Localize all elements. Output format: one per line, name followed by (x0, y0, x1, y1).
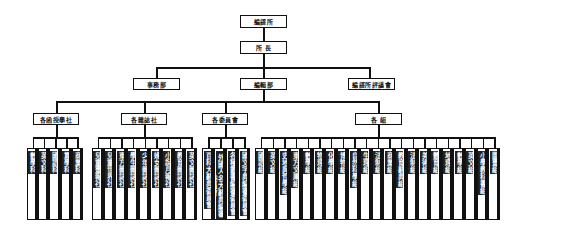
leaf-node: 生理組 (360, 148, 372, 220)
connector (494, 137, 496, 148)
leaf-node: 法制組 (372, 148, 384, 220)
leaf-node: 算學科 (61, 148, 72, 220)
leaf-label: 數學組 (455, 151, 462, 174)
connector (98, 137, 100, 148)
leaf-label: 少年雜誌社 (140, 151, 147, 188)
leaf-node: 外國人名大辭典編審委員會 (214, 148, 226, 220)
leaf-node: 英文科 (38, 148, 49, 220)
node-group-magazines: 各雜誌社 (121, 113, 167, 125)
connector (144, 125, 146, 137)
leaf-label: 法制組 (408, 151, 415, 174)
connector (401, 137, 403, 148)
leaf-node: 商業科 (72, 148, 83, 220)
connector (354, 137, 356, 148)
connector (273, 137, 275, 148)
connector (208, 137, 210, 148)
connector (296, 137, 298, 148)
connector (284, 137, 286, 148)
leaf-label: 學生雜誌社 (128, 151, 135, 188)
connector (66, 137, 68, 148)
leaf-node: 圖畫組 (488, 148, 500, 220)
leaf-label: 國文字典編審委員會 (240, 151, 247, 216)
leaf-node: 國語科 (49, 148, 60, 220)
leaf-label: 圖畫組 (490, 151, 497, 174)
leaf-node: 數學組 (453, 148, 465, 220)
connector (319, 137, 321, 148)
connector (180, 137, 182, 148)
leaf-label: 英文科 (39, 151, 46, 174)
leaf-node: 體育組 (430, 148, 442, 220)
leaf-label: 東方文庫組 (291, 151, 298, 188)
connector (331, 137, 333, 148)
leaf-label: 小學教科書組 (478, 151, 485, 195)
leaf-label: 英文組 (268, 151, 275, 174)
leaf-label: 國語科 (50, 151, 57, 174)
leaf-node: 學生雜誌社 (127, 148, 139, 220)
connector (436, 137, 438, 148)
connector (389, 137, 391, 148)
leaf-node: 地理組 (442, 148, 454, 220)
connector (378, 101, 380, 113)
connector (220, 137, 222, 148)
connector (144, 101, 146, 113)
connector (168, 137, 170, 148)
leaf-label: 教育辭典組 (396, 151, 403, 188)
connector (56, 125, 58, 137)
connector (378, 125, 380, 137)
connector (225, 125, 227, 137)
leaf-node: 教育雜誌社 (174, 148, 186, 220)
connector (459, 137, 461, 148)
connector (225, 101, 227, 113)
leaf-label: 各種叢書編審委員會 (228, 151, 235, 216)
leaf-label: 商業組 (385, 151, 392, 174)
leaf-label: 百科大辭典委員會 (204, 151, 211, 209)
leaf-label: 化學組 (326, 151, 333, 174)
connector (44, 137, 46, 148)
leaf-label: 兒童畫報社 (93, 151, 100, 188)
node-root: 編譯所 (240, 15, 287, 28)
node-group-correspondence: 各函授學社 (33, 113, 79, 125)
leaf-node: 博物組 (337, 148, 349, 220)
leaf-node: 數學科 (27, 148, 38, 220)
leaf-node: 自然科學組 (348, 148, 360, 220)
connector (133, 137, 135, 148)
connector (263, 28, 265, 41)
leaf-node: 婦女雜誌社 (150, 148, 162, 220)
leaf-node: 英文組 (267, 148, 279, 220)
connector (424, 137, 426, 148)
connector (110, 137, 112, 148)
connector (263, 54, 265, 67)
leaf-label: 史地與哲學組 (280, 151, 287, 195)
connector (208, 137, 244, 139)
leaf-label: 博物組 (338, 151, 345, 174)
connector (369, 67, 371, 78)
node-editorial-dept: 編輯部 (240, 78, 287, 90)
node-council: 編譯所評議會 (348, 78, 395, 90)
connector (448, 137, 450, 148)
connector (56, 101, 379, 103)
leaf-label: 算學科 (62, 151, 69, 174)
leaf-label: 數學組 (303, 151, 310, 174)
leaf-node: 兒童世界社 (104, 148, 116, 220)
leaf-node: 兒童畫報社 (92, 148, 104, 220)
leaf-label: 體育組 (431, 151, 438, 174)
leaf-node: 少年雜誌社 (139, 148, 151, 220)
node-group-committees: 各委員會 (202, 113, 248, 125)
leaf-node: 小學教科書組 (477, 148, 489, 220)
connector (413, 137, 415, 148)
leaf-node: 英文組 (465, 148, 477, 220)
leaf-label: 物理組 (315, 151, 322, 174)
leaf-label: 生理組 (361, 151, 368, 174)
node-affairs-dept: 事務部 (133, 78, 180, 90)
leaf-node: 小說月報社 (162, 148, 174, 220)
leaf-label: 國語組 (256, 151, 263, 174)
leaf-node: 各種叢書編審委員會 (226, 148, 238, 220)
leaf-label: 兒童世界社 (105, 151, 112, 188)
connector (55, 137, 57, 148)
leaf-label: 東方雜誌社 (117, 151, 124, 188)
connector (244, 137, 246, 148)
connector (471, 137, 473, 148)
leaf-label: 地理組 (443, 151, 450, 174)
leaf-label: 法制組 (373, 151, 380, 174)
connector (156, 67, 158, 78)
